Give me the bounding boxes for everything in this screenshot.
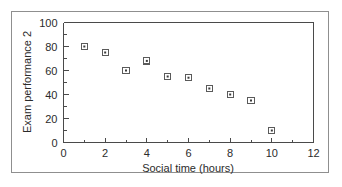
y-tick-label: 60 [45,65,57,77]
data-point [269,127,275,133]
x-axis-title: Social time (hours) [142,162,234,174]
x-tick-label: 12 [307,147,319,159]
ticks-group [64,23,314,143]
data-point [206,85,212,91]
y-tick-label: 40 [45,89,57,101]
data-point [144,58,150,64]
y-tick-labels: 020406080100 [39,17,57,149]
x-tick-label: 6 [185,147,191,159]
data-point [102,49,108,55]
data-point [165,73,171,79]
data-points-group [81,43,275,133]
x-tick-label: 8 [227,147,233,159]
data-point [248,97,254,103]
y-tick-label: 80 [45,41,57,53]
scatter-plot: 024681012 020406080100 Social time (hour… [0,0,342,187]
x-tick-label: 2 [102,147,108,159]
axes-group [64,23,314,143]
data-point [123,67,129,73]
y-tick-label: 20 [45,113,57,125]
x-tick-label: 4 [144,147,150,159]
figure-root: 024681012 020406080100 Social time (hour… [0,0,342,187]
data-point [81,43,87,49]
x-tick-label: 0 [60,147,66,159]
y-tick-label: 0 [51,137,57,149]
y-axis-title: Exam performance 2 [21,31,33,133]
data-point [185,75,191,81]
data-point [227,91,233,97]
x-tick-labels: 024681012 [60,147,319,159]
y-tick-label: 100 [39,17,57,29]
x-tick-label: 10 [266,147,278,159]
